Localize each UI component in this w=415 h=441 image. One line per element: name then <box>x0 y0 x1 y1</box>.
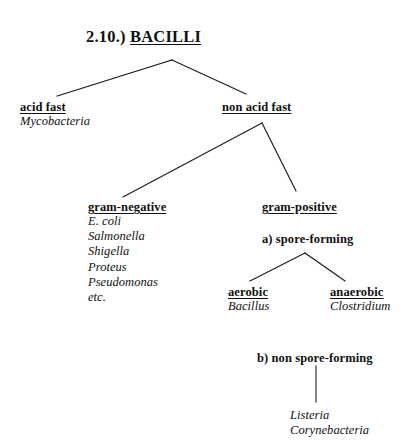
node-non-spore-forming-species-1: Corynebacteria <box>290 423 369 438</box>
node-gram-negative-species-0: E. coli <box>88 214 166 229</box>
edge-root-to-non-acid-fast <box>172 60 246 94</box>
node-acid-fast-species-0: Mycobacteria <box>20 114 90 129</box>
node-gram-negative: gram-negative E. coli Salmonella Shigell… <box>88 200 166 305</box>
page-title: 2.10.) BACILLI <box>86 28 201 46</box>
node-aerobic-label: aerobic <box>228 285 269 299</box>
node-acid-fast: acid fast Mycobacteria <box>20 100 90 129</box>
node-non-spore-forming-label: b) non spore-forming <box>257 351 373 365</box>
node-spore-forming: a) spore-forming <box>262 232 353 246</box>
edge-spore-to-aerobic <box>250 253 305 281</box>
node-gram-negative-species-5: etc. <box>88 290 166 305</box>
title-word: BACILLI <box>130 27 201 46</box>
node-non-acid-fast-label: non acid fast <box>222 100 291 114</box>
node-gram-negative-species-4: Pseudomonas <box>88 275 166 290</box>
node-anaerobic-species-0: Clostridium <box>330 299 390 314</box>
tree-connector-lines <box>0 0 415 441</box>
node-non-acid-fast: non acid fast <box>222 100 291 114</box>
edge-spore-to-anaerobic <box>305 253 345 281</box>
edge-nonacid-to-gram-positive <box>262 123 296 191</box>
node-aerobic-species-0: Bacillus <box>228 299 269 314</box>
node-non-spore-forming-species: Listeria Corynebacteria <box>290 408 369 438</box>
title-number: 2.10.) <box>86 27 126 46</box>
node-gram-negative-label: gram-negative <box>88 200 166 214</box>
edge-nonacid-to-gram-negative <box>123 123 262 197</box>
node-spore-forming-label: a) spore-forming <box>262 232 353 246</box>
node-aerobic: aerobic Bacillus <box>228 285 269 314</box>
node-gram-negative-species-3: Proteus <box>88 260 166 275</box>
node-acid-fast-label: acid fast <box>20 100 90 114</box>
node-gram-negative-species-1: Salmonella <box>88 229 166 244</box>
node-non-spore-forming-species-0: Listeria <box>290 408 369 423</box>
edge-root-to-acid-fast <box>57 60 172 96</box>
node-non-spore-forming: b) non spore-forming <box>257 351 373 365</box>
node-anaerobic-label: anaerobic <box>330 285 390 299</box>
node-gram-positive: gram-positive <box>262 200 337 214</box>
node-gram-positive-label: gram-positive <box>262 200 337 214</box>
node-gram-negative-species-2: Shigella <box>88 244 166 259</box>
bacilli-classification-diagram: 2.10.) BACILLI acid fast Mycobacteria no… <box>0 0 415 441</box>
node-anaerobic: anaerobic Clostridium <box>330 285 390 314</box>
